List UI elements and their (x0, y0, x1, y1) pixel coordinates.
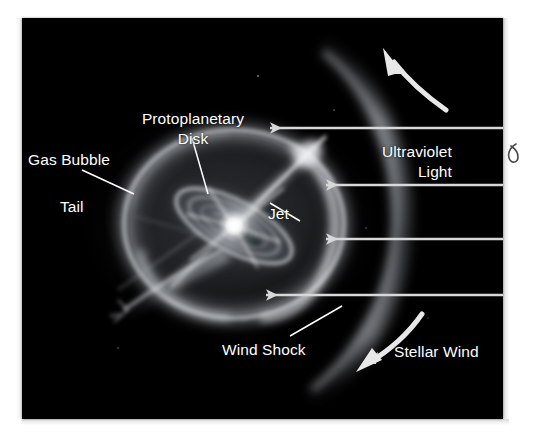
label-jet: Jet (268, 205, 289, 223)
label-protoplanetary-disk-line2: Disk (178, 130, 209, 147)
label-ultraviolet-light-line1: Ultraviolet (382, 143, 452, 160)
label-stellar-wind: Stellar Wind (394, 343, 479, 361)
label-gas-bubble: Gas Bubble (28, 151, 110, 169)
label-ultraviolet-light: UltravioletLight (328, 142, 452, 182)
scan-edge-shadow-right (503, 18, 509, 419)
hook-glyph-icon (505, 141, 521, 165)
label-protoplanetary-disk: ProtoplanetaryDisk (111, 109, 275, 149)
label-ultraviolet-light-line2: Light (418, 163, 452, 180)
leader-lines (82, 138, 342, 336)
label-wind-shock: Wind Shock (222, 341, 306, 359)
label-protoplanetary-disk-line1: Protoplanetary (142, 110, 244, 127)
leader-gas-bubble (82, 170, 134, 194)
scan-edge-shadow-bottom (22, 419, 509, 425)
image-panel: ProtoplanetaryDisk Gas Bubble Tail Jet U… (22, 18, 503, 419)
astronomy-figure: ProtoplanetaryDisk Gas Bubble Tail Jet U… (0, 0, 539, 442)
label-tail: Tail (60, 198, 84, 216)
leader-wind-shock (290, 306, 342, 336)
rotation-curved-arrow (383, 48, 446, 110)
